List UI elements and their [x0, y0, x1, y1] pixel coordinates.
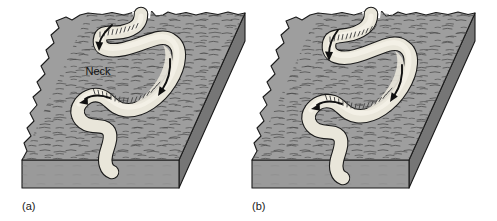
figure-canvas: Neck (a)	[0, 0, 497, 221]
panel-b: (b)	[248, 8, 484, 212]
panel-label-a: (a)	[22, 200, 35, 212]
neck-label: Neck	[85, 65, 111, 77]
panel-a: Neck (a)	[18, 8, 254, 212]
meander-cutoff-figure: Neck (a)	[0, 0, 497, 221]
panel-label-b: (b)	[252, 200, 265, 212]
